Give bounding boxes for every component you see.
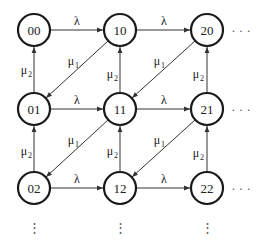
label-mu2: μ2 [193, 146, 204, 162]
svg-text:2: 2 [200, 74, 204, 83]
svg-text:1: 1 [161, 61, 165, 70]
svg-text:00: 00 [28, 23, 41, 38]
label-mu2: μ2 [21, 144, 32, 160]
svg-text:10: 10 [114, 23, 127, 38]
state-node-01: 01 [18, 93, 50, 125]
svg-text:μ: μ [154, 54, 160, 68]
svg-text:μ: μ [21, 144, 27, 158]
svg-text:01: 01 [28, 102, 41, 117]
svg-text:11: 11 [114, 102, 127, 117]
svg-text:2: 2 [28, 70, 32, 79]
svg-text:12: 12 [114, 181, 127, 196]
svg-text:μ: μ [107, 144, 113, 158]
svg-text:1: 1 [75, 61, 79, 70]
svg-text:μ: μ [21, 63, 27, 77]
edge-20-11 [132, 41, 195, 98]
state-node-02: 02 [18, 172, 50, 204]
edge-11-02 [46, 120, 108, 177]
svg-text:μ: μ [193, 146, 199, 160]
svg-text:μ: μ [154, 133, 160, 147]
label-lambda: λ [161, 14, 167, 28]
svg-text:20: 20 [201, 23, 214, 38]
svg-text:μ: μ [107, 67, 113, 81]
label-mu2: μ2 [193, 67, 204, 83]
label-mu2: μ2 [107, 144, 118, 160]
ellipsis-vertical: ⋮ [201, 220, 214, 235]
ellipsis-vertical: ⋮ [28, 220, 41, 235]
svg-text:2: 2 [114, 151, 118, 160]
label-lambda: λ [161, 93, 167, 107]
ellipsis-horizontal: · · · [231, 23, 251, 38]
svg-text:1: 1 [75, 140, 79, 149]
svg-text:21: 21 [201, 102, 214, 117]
label-lambda: λ [74, 93, 80, 107]
ellipsis-horizontal: · · · [231, 102, 251, 117]
state-node-00: 00 [18, 14, 50, 46]
svg-text:2: 2 [28, 151, 32, 160]
svg-text:2: 2 [200, 153, 204, 162]
state-node-21: 21 [191, 93, 223, 125]
state-node-11: 11 [104, 93, 136, 125]
state-node-12: 12 [104, 172, 136, 204]
state-node-20: 20 [191, 14, 223, 46]
svg-text:2: 2 [114, 74, 118, 83]
label-lambda: λ [74, 172, 80, 186]
svg-text:μ: μ [68, 133, 74, 147]
edge-21-12 [132, 120, 195, 177]
svg-text:02: 02 [28, 181, 41, 196]
state-diagram: λ λ λ λ λ λ μ2 μ2 μ2 μ2 μ2 μ2 μ1 μ1 μ1 μ… [0, 0, 258, 245]
label-mu1: μ1 [154, 54, 165, 70]
ellipsis-vertical: ⋮ [114, 220, 127, 235]
svg-text:1: 1 [161, 140, 165, 149]
svg-text:μ: μ [68, 54, 74, 68]
edge-10-01 [46, 41, 108, 98]
label-mu1: μ1 [68, 133, 79, 149]
label-lambda: λ [74, 14, 80, 28]
label-mu2: μ2 [107, 67, 118, 83]
state-node-22: 22 [191, 172, 223, 204]
state-node-10: 10 [104, 14, 136, 46]
ellipsis-horizontal: · · · [231, 181, 251, 196]
svg-text:22: 22 [201, 181, 214, 196]
svg-text:μ: μ [193, 67, 199, 81]
label-mu1: μ1 [154, 133, 165, 149]
label-mu1: μ1 [68, 54, 79, 70]
label-lambda: λ [161, 172, 167, 186]
label-mu2: μ2 [21, 63, 32, 79]
